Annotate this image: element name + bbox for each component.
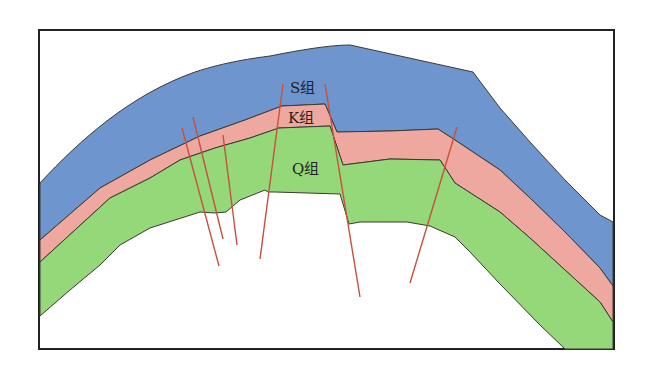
label-s-formation: S组 [290,79,315,97]
label-q-formation: Q组 [292,160,319,178]
label-k-formation: K组 [288,109,314,127]
geologic-cross-section: S组 K组 Q组 [0,0,647,377]
